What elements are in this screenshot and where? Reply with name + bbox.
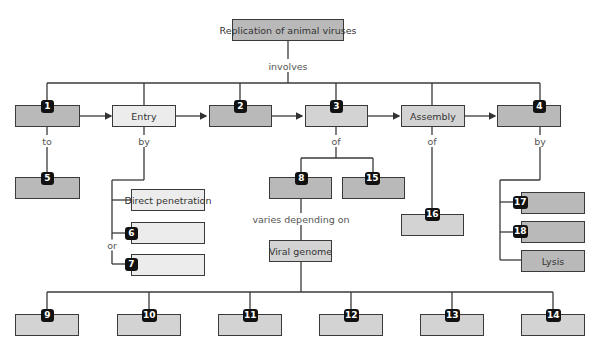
stage-4-node	[497, 105, 561, 127]
badge-7: 7	[125, 258, 138, 271]
badge-10: 10	[142, 309, 157, 322]
badge-9: 9	[41, 309, 54, 322]
root-label: Replication of animal viruses	[220, 25, 357, 36]
badge-6: 6	[125, 227, 138, 240]
badge-4: 4	[533, 100, 546, 113]
badge-15: 15	[365, 172, 380, 185]
link-varies: varies depending on	[250, 214, 351, 225]
badge-2: 2	[234, 100, 247, 113]
badge-18: 18	[513, 225, 528, 238]
link-or: or	[105, 240, 119, 251]
lysis-label: Lysis	[542, 256, 565, 267]
badge-13: 13	[445, 309, 460, 322]
badge-14: 14	[546, 309, 561, 322]
badge-3: 3	[330, 100, 343, 113]
release-17-node	[521, 192, 585, 214]
badge-5: 5	[41, 172, 54, 185]
entry-label: Entry	[131, 111, 156, 122]
direct-penetration-label: Direct penetration	[125, 195, 212, 206]
viral-genome-label: Viral genome	[269, 246, 332, 257]
assembly-label: Assembly	[410, 111, 456, 122]
link-3-of: of	[329, 136, 342, 147]
viral-genome-node: Viral genome	[269, 240, 332, 262]
entry-7-node	[131, 254, 205, 276]
link-entry-by: by	[136, 136, 152, 147]
release-lysis-node: Lysis	[521, 250, 585, 272]
entry-6-node	[131, 222, 205, 244]
stage-assembly-node: Assembly	[401, 105, 465, 127]
badge-12: 12	[344, 309, 359, 322]
badge-16: 16	[425, 208, 440, 221]
badge-17: 17	[513, 196, 528, 209]
badge-11: 11	[243, 309, 258, 322]
stage-entry-node: Entry	[112, 105, 176, 127]
badge-8: 8	[295, 172, 308, 185]
root-node: Replication of animal viruses	[232, 19, 344, 41]
link-to: to	[40, 136, 54, 147]
release-18-node	[521, 221, 585, 243]
link-4-by: by	[532, 136, 548, 147]
badge-1: 1	[41, 100, 54, 113]
link-involves: involves	[266, 61, 309, 72]
link-assembly-of: of	[425, 136, 438, 147]
concept-map: Replication of animal viruses involves 1…	[0, 0, 603, 358]
entry-direct-penetration-node: Direct penetration	[131, 189, 205, 211]
